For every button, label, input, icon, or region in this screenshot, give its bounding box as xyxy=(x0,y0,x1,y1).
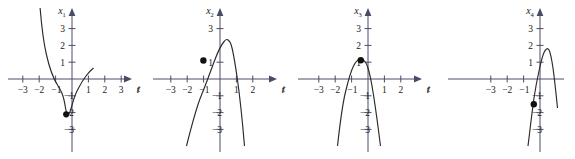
x-ticklabel-3: 3 xyxy=(119,85,124,95)
y-ticklabel--3: −3 xyxy=(532,125,542,135)
y-ticklabel-1: 1 xyxy=(528,58,533,68)
x-ticklabel--3: −3 xyxy=(166,85,176,95)
y-ticklabel-2: 2 xyxy=(528,41,533,51)
y-ticklabel--2: −2 xyxy=(532,108,542,118)
y-ticklabel--1: −1 xyxy=(64,91,74,101)
x-ticklabel--2: −2 xyxy=(502,85,512,95)
y-axis-arrow xyxy=(69,8,76,16)
plot-panel-x4: −3 −2 −1 1 2 3 −1 −2 −3 x4 xyxy=(430,0,575,159)
x-ticklabel-2: 2 xyxy=(398,85,403,95)
y-ticklabel--3: −3 xyxy=(64,125,74,135)
y-axis-label: x3 xyxy=(353,5,362,18)
x-ticklabel--3: −3 xyxy=(314,85,324,95)
y-ticklabel-3: 3 xyxy=(356,24,361,34)
data-point-marker xyxy=(358,57,364,63)
x-ticklabel-2: 2 xyxy=(250,85,255,95)
plot-panel-x3: −3 −2 −1 1 2 1 2 3 −1 −2 −3 x3 t xyxy=(290,0,435,159)
plot-panel-x1: −3 −2 −1 1 2 3 1 2 3 −1 −2 −3 x1 t xyxy=(0,0,145,159)
y-ticklabel--3: −3 xyxy=(212,125,222,135)
x-axis-arrow xyxy=(269,76,277,83)
y-ticklabel--3: −3 xyxy=(360,125,370,135)
curve-x3 xyxy=(338,59,381,146)
x-axis-arrow xyxy=(124,76,132,83)
four-panel-plot-figure: −3 −2 −1 1 2 3 1 2 3 −1 −2 −3 x1 t xyxy=(0,0,575,159)
data-point-marker xyxy=(200,57,206,63)
x-ticklabel-1: 1 xyxy=(86,85,91,95)
y-ticklabel--2: −2 xyxy=(212,108,222,118)
y-ticklabel--2: −2 xyxy=(360,108,370,118)
y-ticklabel-3: 3 xyxy=(60,24,65,34)
x-axis-label: t xyxy=(282,84,285,95)
x-ticklabel--1: −1 xyxy=(347,85,357,95)
plot-panel-x2: −3 −2 −1 1 2 1 3 −1 −2 −3 x2 t xyxy=(145,0,290,159)
y-axis-arrow xyxy=(365,8,372,16)
y-axis-label: x2 xyxy=(205,5,214,18)
x-axis-label: t xyxy=(137,84,140,95)
y-ticklabel-3: 3 xyxy=(208,24,213,34)
x-axis-arrow xyxy=(414,76,422,83)
y-ticklabel-3: 3 xyxy=(528,24,533,34)
plot-canvas-x4: −3 −2 −1 1 2 3 −1 −2 −3 x4 xyxy=(430,0,575,159)
data-point-marker xyxy=(63,111,69,117)
y-axis-label: x4 xyxy=(525,5,534,18)
y-ticklabel-2: 2 xyxy=(60,41,65,51)
plot-canvas-x3: −3 −2 −1 1 2 1 2 3 −1 −2 −3 x3 t xyxy=(290,0,435,159)
x-ticklabel-2: 2 xyxy=(102,85,107,95)
y-axis-arrow xyxy=(537,8,544,16)
x-ticklabel--2: −2 xyxy=(330,85,340,95)
x-ticklabel-1: 1 xyxy=(382,85,387,95)
y-ticklabel-1: 1 xyxy=(60,58,65,68)
y-axis-arrow xyxy=(217,8,224,16)
y-ticklabel--1: −1 xyxy=(360,91,370,101)
x-ticklabel--1: −1 xyxy=(519,85,529,95)
x-ticklabel--2: −2 xyxy=(34,85,44,95)
x-ticklabel--2: −2 xyxy=(182,85,192,95)
y-ticklabel-2: 2 xyxy=(356,41,361,51)
x-ticklabel--3: −3 xyxy=(18,85,28,95)
y-axis-label: x1 xyxy=(57,5,66,18)
plot-canvas-x1: −3 −2 −1 1 2 3 1 2 3 −1 −2 −3 x1 t xyxy=(0,0,145,159)
plot-canvas-x2: −3 −2 −1 1 2 1 3 −1 −2 −3 x2 t xyxy=(145,0,290,159)
y-ticklabel--1: −1 xyxy=(212,91,222,101)
x-ticklabel--3: −3 xyxy=(486,85,496,95)
data-point-marker xyxy=(531,101,537,107)
